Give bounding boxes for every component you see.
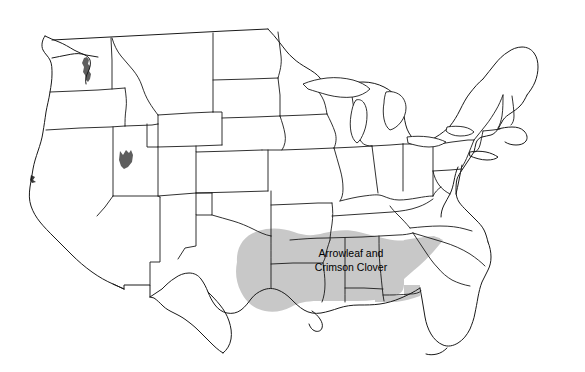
lake-huron [383,92,406,130]
mississippi-delta [309,311,322,331]
border-ut-wy [147,124,158,147]
region-label-line-1: Arrowleaf and [319,247,384,259]
border-wa-id [111,38,112,89]
mexico-border-rio-grande [150,297,223,353]
pacific-coastline [29,36,124,289]
border-ia-il [327,114,336,148]
atlantic-coastline [456,152,488,242]
border-co-nm-ok [158,193,212,196]
border-in-mi [372,144,403,146]
border-va-nc [410,226,472,231]
chesapeake-bay [441,167,458,217]
border-wy-co-ne [158,145,222,147]
mexico-border-arizona [113,284,124,289]
border-il-in [372,146,378,193]
utah-patch-shape [119,150,133,169]
border-az-nm [150,197,160,285]
isolated-patches-group [30,57,133,183]
border-md-wv-va [433,171,450,194]
cape-cod [498,127,527,145]
border-pa-md [433,169,462,171]
border-nd-sd [213,78,278,80]
border-ne-ks-co [196,146,262,152]
lake-ontario [446,126,474,136]
northern-border [52,29,268,40]
border-id-nv-ut [125,124,158,126]
region-label-line-2: Crimson Clover [315,261,388,273]
border-mo-ar [271,203,332,205]
border-nd-mn [278,32,281,78]
border-ok-tx-panhandle [196,193,212,215]
border-wi-il [334,146,372,148]
border-nv-az [97,196,113,216]
border-mo-il [334,148,343,201]
border-nh-me [511,96,514,125]
border-ia-mo [282,148,334,150]
carolina-florida-coast [420,242,491,346]
mexico-border-western [124,285,150,297]
florida-keys [426,348,447,355]
border-ks-ok [196,191,268,193]
border-ut-az-nm [113,196,160,197]
lake-superior [303,78,370,98]
border-sd-ne [222,116,280,118]
border-mt-wy [158,112,213,115]
great-lakes-group [303,78,474,147]
border-or-id [125,88,126,126]
lake-erie [407,136,446,147]
border-tn-nc [390,206,410,228]
border-wy-sd [213,112,222,145]
border-ky-tn [332,199,433,216]
border-ne-ia-mo [262,116,285,150]
border-wa-or [50,88,125,92]
us-map-svg: Arrowleaf and Crimson Clover [0,0,585,372]
border-wv-va [433,187,441,196]
washington-patch-shape [82,57,91,82]
border-mn-ia [280,114,327,116]
border-pa-nj-md [462,140,474,167]
border-id-mt [112,38,158,115]
maine-northern-border [483,47,538,95]
border-ok-tx-red-river [212,215,271,236]
border-sd-mn-ia [278,78,280,116]
distribution-map: Arrowleaf and Crimson Clover [0,0,585,372]
south-carolina-shading [402,236,443,281]
border-ny-newengland [474,95,503,140]
border-ohio-river [340,195,433,201]
border-nm-tx [178,215,196,259]
lake-michigan [350,100,367,143]
